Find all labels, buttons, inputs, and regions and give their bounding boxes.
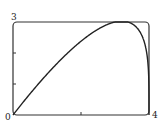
origin-label: 0 [5, 113, 11, 122]
data-curve [13, 22, 149, 115]
plot-frame [13, 22, 149, 115]
x-max-label: 4 [152, 111, 158, 120]
y-max-label: 3 [11, 13, 17, 22]
chart-plot [0, 0, 166, 129]
